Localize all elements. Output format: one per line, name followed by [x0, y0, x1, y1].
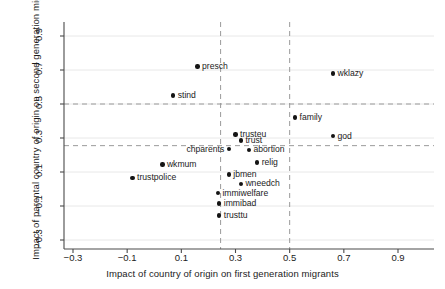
data-point-trusttu	[217, 213, 221, 217]
data-point-label-trustpolice: trustpolice	[137, 172, 176, 182]
data-point-jbmen	[227, 172, 231, 176]
data-point-god	[331, 134, 335, 138]
scatter-plot-figure: preschwklazystindfamilytrusteugodtrustch…	[0, 0, 445, 289]
data-point-relig	[255, 160, 259, 164]
data-point-label-wklazy: wklazy	[338, 68, 364, 78]
x-tick-label: 0.1	[161, 252, 201, 263]
x-axis-title: Impact of country of origin on first gen…	[0, 268, 445, 280]
x-tick-label: 0.7	[324, 252, 364, 263]
data-point-stind	[171, 93, 175, 97]
data-point-family	[293, 115, 297, 119]
data-point-label-stind: stind	[178, 90, 196, 100]
data-point-trust	[239, 138, 243, 142]
x-tick-label: −0.1	[107, 252, 147, 263]
data-point-presch	[195, 64, 199, 68]
data-point-wneedch	[239, 182, 243, 186]
data-point-label-god: god	[338, 131, 352, 141]
data-point-label-wkmum: wkmum	[167, 159, 197, 169]
data-point-wkmum	[160, 162, 164, 166]
data-point-immibad	[217, 201, 221, 205]
x-tick-label: 0.5	[270, 252, 310, 263]
data-point-immiwelfare	[216, 191, 220, 195]
data-point-trustpolice	[130, 176, 134, 180]
plot-data-layer: preschwklazystindfamilytrusteugodtrustch…	[0, 0, 445, 289]
data-point-label-immibad: immibad	[224, 198, 256, 208]
x-tick-label: 0.3	[216, 252, 256, 263]
y-axis-title: Impact of parental country of origin on …	[30, 10, 42, 260]
x-tick-label: 0.9	[378, 252, 418, 263]
data-point-label-relig: relig	[262, 157, 278, 167]
x-tick-label: −0.3	[53, 252, 93, 263]
data-point-label-presch: presch	[202, 61, 228, 71]
data-point-label-immiwelfare: immiwelfare	[222, 188, 268, 198]
data-point-chparents	[227, 147, 231, 151]
data-point-abortion	[247, 148, 251, 152]
data-point-trusteu	[233, 132, 237, 136]
data-point-label-trusttu: trusttu	[224, 210, 248, 220]
data-point-wklazy	[331, 71, 335, 75]
data-point-label-family: family	[300, 112, 322, 122]
data-point-label-abortion: abortion	[254, 144, 285, 154]
